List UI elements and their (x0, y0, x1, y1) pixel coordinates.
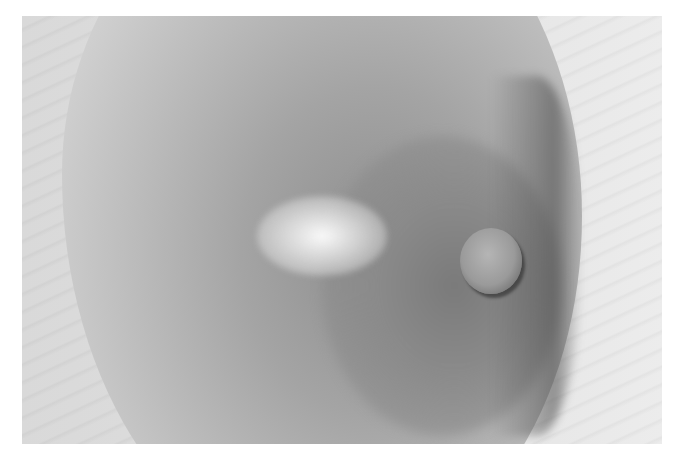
photo-caption (22, 447, 322, 455)
pale-lesion-patch (257, 196, 387, 276)
clinical-photo (22, 16, 662, 444)
nipple (460, 228, 522, 294)
